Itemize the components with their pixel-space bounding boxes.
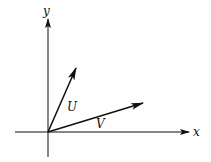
vector-u-label: U xyxy=(67,100,78,114)
vector-v-label: V xyxy=(96,117,106,131)
y-axis-label: y xyxy=(42,4,50,18)
diagram-canvas: y x U V xyxy=(0,0,211,162)
vector-diagram: y x U V xyxy=(0,0,211,162)
x-axis-label: x xyxy=(193,125,200,139)
